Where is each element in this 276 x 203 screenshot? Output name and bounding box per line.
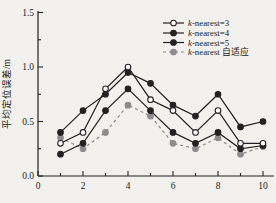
data-point-marker xyxy=(148,113,154,119)
data-point-marker xyxy=(80,130,86,136)
data-point-marker xyxy=(170,141,176,147)
x-axis-tick-label: 4 xyxy=(126,181,131,191)
series-line xyxy=(61,72,264,132)
series-lines xyxy=(58,64,266,157)
data-point-marker xyxy=(215,130,221,136)
series-line xyxy=(61,105,264,154)
data-point-marker xyxy=(215,108,221,114)
data-point-marker xyxy=(170,108,176,114)
x-axis-tick-label: 2 xyxy=(81,181,86,191)
data-point-marker xyxy=(215,135,221,141)
data-point-marker xyxy=(238,151,244,157)
x-axis-tick-label: 8 xyxy=(216,181,221,191)
legend-label: k-nearest 自适应 xyxy=(188,46,249,57)
y-axis-label: 平均定位误差/m xyxy=(1,58,12,129)
data-point-marker xyxy=(80,146,86,152)
data-point-marker xyxy=(58,151,64,157)
legend-label: k-nearest=3 xyxy=(188,18,230,28)
chart: 0.00.51.01.50246810 平均定位误差/m k-nearest=3… xyxy=(0,0,276,203)
data-point-marker xyxy=(260,119,266,125)
data-point-marker xyxy=(238,124,244,130)
x-axis-tick-label: 6 xyxy=(171,181,176,191)
y-axis-tick-label: 1.5 xyxy=(22,8,34,18)
data-point-marker xyxy=(260,141,266,147)
data-point-marker xyxy=(80,141,86,147)
data-point-marker xyxy=(170,130,176,136)
data-point-marker xyxy=(238,141,244,147)
data-point-marker xyxy=(193,130,199,136)
data-point-marker xyxy=(125,64,131,70)
data-point-marker xyxy=(193,146,199,152)
data-point-marker xyxy=(148,81,154,87)
data-point-marker xyxy=(171,20,177,26)
data-point-marker xyxy=(125,102,131,108)
series-k-nearest-5 xyxy=(58,70,266,136)
legend-item: k-nearest 自适应 xyxy=(163,46,249,57)
legend-label: k-nearest=4 xyxy=(188,28,230,38)
series-k-nearest- xyxy=(58,102,266,157)
data-point-marker xyxy=(125,86,131,92)
series-line xyxy=(61,89,264,154)
data-point-marker xyxy=(58,135,64,141)
data-point-marker xyxy=(148,97,154,103)
y-axis-tick-label: 0.0 xyxy=(22,171,34,181)
data-point-marker xyxy=(171,30,177,36)
data-point-marker xyxy=(103,130,109,136)
legend-label: k-nearest=5 xyxy=(188,38,230,48)
data-point-marker xyxy=(171,49,177,55)
data-point-marker xyxy=(170,102,176,108)
x-axis-tick-label: 0 xyxy=(36,181,41,191)
y-axis-tick-label: 1.0 xyxy=(22,62,34,72)
legend: k-nearest=3k-nearest=4k-nearest=5k-neare… xyxy=(163,18,249,57)
data-point-marker xyxy=(80,108,86,114)
line-chart-canvas: 0.00.51.01.50246810 平均定位误差/m k-nearest=3… xyxy=(0,0,276,203)
data-point-marker xyxy=(215,91,221,97)
data-point-marker xyxy=(58,141,64,147)
data-point-marker xyxy=(103,86,109,92)
data-point-marker xyxy=(148,108,154,114)
data-point-marker xyxy=(193,113,199,119)
data-point-marker xyxy=(103,108,109,114)
data-point-marker xyxy=(193,141,199,147)
x-axis-tick-label: 10 xyxy=(258,181,268,191)
legend-item: k-nearest=5 xyxy=(163,38,230,48)
legend-item: k-nearest=3 xyxy=(163,18,230,28)
data-point-marker xyxy=(58,130,64,136)
data-point-marker xyxy=(238,146,244,152)
y-axis-tick-label: 0.5 xyxy=(22,117,34,127)
legend-item: k-nearest=4 xyxy=(163,28,230,38)
data-point-marker xyxy=(171,40,177,46)
